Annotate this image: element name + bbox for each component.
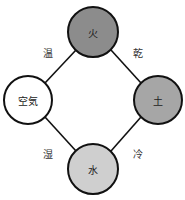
edge-label-cold: 冷 bbox=[133, 148, 143, 160]
edge-air-water bbox=[45, 117, 76, 151]
edge-label-warm: 温 bbox=[43, 48, 53, 59]
node-fire: 火 bbox=[68, 7, 118, 57]
edge-label-dry: 乾 bbox=[133, 47, 143, 59]
node-water: 水 bbox=[68, 144, 118, 194]
node-earth: 土 bbox=[134, 76, 182, 124]
edge-water-earth bbox=[111, 117, 141, 151]
node-label-water: 水 bbox=[88, 165, 98, 176]
node-label-earth: 土 bbox=[153, 95, 163, 107]
node-label-fire: 火 bbox=[88, 28, 98, 39]
node-air: 空気 bbox=[4, 76, 52, 124]
elements-diagram: 温 乾 湿 冷 火 空気 土 水 bbox=[0, 0, 185, 200]
node-label-air: 空気 bbox=[18, 95, 38, 107]
edge-label-wet: 湿 bbox=[43, 149, 53, 160]
